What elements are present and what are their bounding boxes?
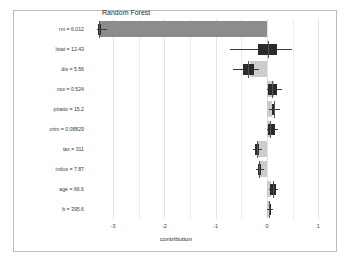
y-axis-label: lstat = 12.43 [56, 44, 84, 54]
chart-row [90, 19, 326, 39]
chart-root: Random Forest rm = 6.012lstat = 12.43dis… [0, 0, 350, 264]
x-axis-ticks: -3-2-101 [90, 223, 326, 235]
boxplot-median [257, 141, 258, 158]
y-axis-label: dis = 5.56 [61, 64, 84, 74]
y-axis-labels: rm = 6.012lstat = 12.43dis = 5.56nox = 0… [14, 19, 88, 219]
boxplot-median [248, 61, 249, 78]
contribution-bar [99, 21, 267, 37]
plot-frame: Random Forest rm = 6.012lstat = 12.43dis… [13, 10, 337, 252]
chart-row [90, 139, 326, 159]
chart-row [90, 199, 326, 219]
x-tick-label: 1 [317, 223, 320, 229]
boxplot-median [269, 201, 270, 218]
chart-row [90, 179, 326, 199]
chart-row [90, 79, 326, 99]
x-axis-title: contribution [14, 235, 338, 242]
plot-panel: Random Forest rm = 6.012lstat = 12.43dis… [14, 11, 338, 253]
x-tick-label: 0 [266, 223, 269, 229]
y-axis-label: ptratio = 15.2 [54, 104, 84, 114]
x-tick-label: -3 [111, 223, 116, 229]
plot-area [90, 19, 326, 219]
boxplot-median [273, 181, 274, 198]
y-axis-label: rm = 6.012 [59, 24, 84, 34]
chart-row [90, 159, 326, 179]
boxplot-median [274, 101, 275, 118]
boxplot-median [268, 41, 269, 58]
chart-row [90, 59, 326, 79]
boxplot-median [272, 81, 273, 98]
chart-row [90, 119, 326, 139]
y-axis-label: nox = 0.524 [57, 84, 84, 94]
boxplot-median [99, 21, 100, 38]
chart-row [90, 99, 326, 119]
x-tick-label: -1 [213, 223, 218, 229]
y-axis-label: b = 395.6 [62, 204, 84, 214]
boxplot-box [268, 124, 275, 135]
plot-title: Random Forest [102, 9, 150, 16]
y-axis-label: crim = 0.08829 [50, 124, 84, 134]
boxplot-median [270, 121, 271, 138]
boxplot-median [259, 161, 260, 178]
y-axis-label: age = 66.6 [59, 184, 84, 194]
y-axis-label: tax = 311 [63, 144, 84, 154]
y-axis-label: indus = 7.87 [56, 164, 84, 174]
x-tick-label: -2 [162, 223, 167, 229]
chart-row [90, 39, 326, 59]
